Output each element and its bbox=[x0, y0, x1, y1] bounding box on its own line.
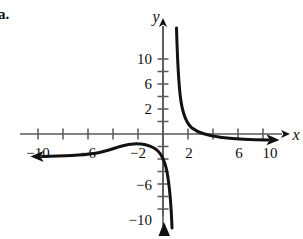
y-axis-down-arrowhead bbox=[159, 222, 171, 236]
x-tick-label: −10 bbox=[26, 145, 49, 161]
x-axis-label: x bbox=[291, 126, 299, 143]
y-axis-label: y bbox=[150, 8, 160, 26]
x-tick-label: −6 bbox=[80, 145, 96, 161]
x-tick-label: −2 bbox=[130, 145, 146, 161]
curve-right-branch bbox=[177, 28, 269, 140]
coordinate-plane: y x −10 −6 −2 2 6 10 10 6 2 −6 −10 bbox=[0, 0, 303, 239]
y-tick-label: 6 bbox=[145, 76, 153, 92]
curve-left-branch bbox=[42, 144, 172, 228]
x-tick-label: 10 bbox=[263, 145, 278, 161]
x-tick-label: 6 bbox=[235, 145, 243, 161]
y-tick-label: −10 bbox=[129, 212, 152, 228]
function-curve bbox=[42, 28, 268, 228]
y-tick-label: −6 bbox=[136, 177, 152, 193]
x-tick-label: 2 bbox=[185, 145, 193, 161]
y-tick-label: 10 bbox=[137, 51, 152, 67]
y-tick-labels: 10 6 2 −6 −10 bbox=[129, 51, 153, 228]
graph-figure: a. bbox=[0, 0, 303, 239]
y-tick-label: 2 bbox=[145, 101, 153, 117]
